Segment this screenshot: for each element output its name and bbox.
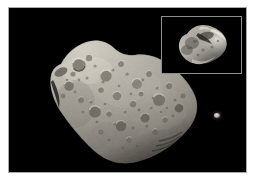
image-alt-text: Black-and-white spacecraft photograph of… <box>0 16 1 17</box>
image-canvas: Black-and-white spacecraft photograph of… <box>0 0 255 184</box>
photograph-frame <box>8 7 247 173</box>
moon-point <box>214 113 220 118</box>
inset-closeup-svg <box>162 17 241 73</box>
inset-closeup <box>161 16 242 74</box>
inset-moon-surface <box>162 17 241 73</box>
